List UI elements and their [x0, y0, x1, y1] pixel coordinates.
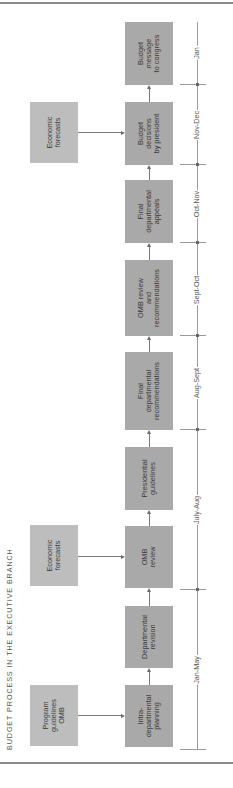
arrow-down-icon: [121, 555, 125, 559]
input-connector: [78, 556, 121, 557]
flow-connector: [149, 247, 150, 260]
step-final-departmental-appeals: Final departmental appeals: [125, 180, 173, 243]
bottom-rule: [0, 763, 233, 765]
step-presidential-guidelines: Presidential guidelines: [125, 447, 173, 510]
step-omb-review: OMB review: [125, 526, 173, 588]
arrow-right-icon: [147, 510, 151, 514]
step-departmental-revision: Departmental revision: [125, 606, 173, 668]
arrow-right-icon: [147, 243, 151, 247]
flow-connector: [149, 672, 150, 685]
step-budget-decisions-by-president: Budget decisions by president: [125, 102, 173, 165]
period-label-jan: Jan: [192, 46, 201, 60]
arrow-right-icon: [147, 165, 151, 169]
timeline-marker: [196, 241, 199, 244]
diagram-title: BUDGET PROCESS IN THE EXECUTIVE BRANCH: [5, 548, 14, 750]
top-rule: [0, 3, 233, 5]
input-program-guidelines-omb: Program guidelines OMB: [30, 685, 78, 746]
arrow-right-icon: [147, 336, 151, 340]
timeline-marker: [196, 428, 199, 431]
timeline-marker: [196, 163, 199, 166]
period-label-july-aug: July-Aug: [192, 495, 201, 525]
step-final-departmental-recommendations: Final departmental recommendations: [125, 352, 173, 430]
input-economic-forecasts-2: Economic forecasts: [30, 102, 78, 163]
period-label-nov-dec: Nov-Dec: [192, 110, 201, 140]
timeline-marker: [196, 334, 199, 337]
arrow-right-icon: [147, 430, 151, 434]
budget-process-diagram: BUDGET PROCESS IN THE EXECUTIVE BRANCH I…: [0, 0, 233, 788]
step-budget-message-to-congress: Budget message to congress: [125, 22, 173, 85]
flow-connector: [149, 169, 150, 180]
timeline-separator: [180, 84, 206, 85]
input-connector: [78, 715, 121, 716]
arrow-right-icon: [147, 85, 151, 89]
period-label-sept-oct: Sept-Oct: [192, 275, 201, 305]
flow-connector: [149, 340, 150, 352]
period-label-aug-sept: Aug-Sept: [192, 367, 201, 399]
flow-connector: [149, 592, 150, 606]
timeline-marker: [196, 588, 199, 591]
input-connector: [78, 132, 121, 133]
flow-connector: [149, 514, 150, 526]
arrow-down-icon: [121, 131, 125, 135]
arrow-down-icon: [121, 714, 125, 718]
input-economic-forecasts-1: Economic forecasts: [30, 525, 78, 586]
period-label-oct-nov: Oct-Nov: [192, 190, 201, 218]
period-label-jan-may: Jan-May: [192, 655, 201, 685]
timeline-marker: [196, 83, 199, 86]
timeline-separator: [180, 749, 206, 750]
timeline-separator: [180, 335, 206, 336]
flow-connector: [149, 434, 150, 447]
timeline-separator: [180, 242, 206, 243]
step-intra-departmental-planning: Intra- departmental planning: [125, 685, 173, 747]
step-omb-review-and-recommendations: OMB review and recommendations: [125, 260, 173, 336]
timeline-separator: [180, 429, 206, 430]
timeline-separator: [180, 589, 206, 590]
arrow-right-icon: [147, 668, 151, 672]
arrow-right-icon: [147, 588, 151, 592]
timeline-separator: [180, 164, 206, 165]
flow-connector: [149, 89, 150, 102]
